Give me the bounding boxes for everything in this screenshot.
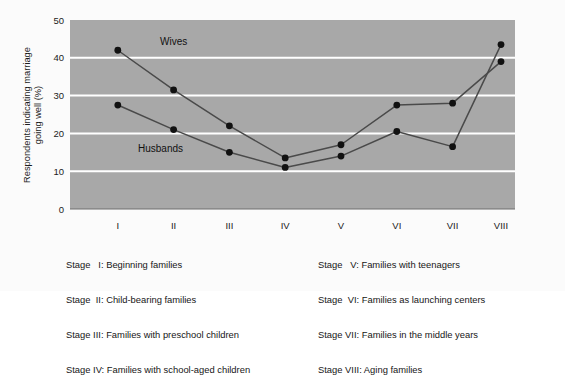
legend-item: Stage V: Families with teenagers: [318, 259, 485, 271]
data-point: [449, 143, 456, 150]
x-tick-VI: VI: [392, 220, 401, 231]
data-point: [170, 87, 177, 94]
data-point: [498, 41, 505, 48]
legend-item: Stage I: Beginning families: [66, 259, 250, 271]
x-tick-VII: VII: [447, 220, 459, 231]
data-point: [449, 100, 456, 107]
data-point: [393, 128, 400, 135]
data-point: [114, 47, 121, 54]
x-tick-II: II: [171, 220, 176, 231]
stage-legend-right-column: Stage V: Families with teenagers Stage V…: [318, 236, 485, 379]
y-axis-title-line-2: going well (%): [33, 86, 43, 144]
x-tick-V: V: [338, 220, 345, 231]
data-point: [498, 58, 505, 65]
legend-item: Stage III: Families with preschool child…: [66, 329, 250, 341]
y-tick-40: 40: [53, 52, 64, 63]
legend-item: Stage II: Child-bearing families: [66, 294, 250, 306]
y-axis-title-line-1: Respondents indicating marriage: [22, 47, 32, 183]
data-point: [282, 155, 289, 162]
data-point: [393, 102, 400, 109]
data-point: [338, 141, 345, 148]
legend-item: Stage VII: Families in the middle years: [318, 329, 485, 341]
y-tick-10: 10: [53, 166, 64, 177]
data-point: [114, 102, 121, 109]
data-point: [226, 149, 233, 156]
y-axis-tick-labels: 50 40 30 20 10 0: [53, 15, 64, 215]
x-tick-I: I: [116, 220, 119, 231]
plot-area-background: [70, 20, 515, 209]
y-tick-0: 0: [59, 204, 64, 215]
x-tick-VIII: VIII: [494, 220, 508, 231]
legend-item: Stage VI: Families as launching centers: [318, 294, 485, 306]
y-tick-50: 50: [53, 15, 64, 26]
stage-legend-left-column: Stage I: Beginning families Stage II: Ch…: [66, 236, 250, 379]
x-axis-tick-labels: I II III IV V VI VII VIII: [116, 220, 508, 231]
series-label-wives: Wives: [160, 36, 187, 47]
series-label-husbands: Husbands: [138, 143, 183, 154]
data-point: [170, 126, 177, 133]
data-point: [226, 122, 233, 129]
legend-item: Stage IV: Families with school-aged chil…: [66, 364, 250, 376]
x-tick-IV: IV: [281, 220, 291, 231]
y-tick-30: 30: [53, 90, 64, 101]
data-point: [282, 164, 289, 171]
y-tick-20: 20: [53, 128, 64, 139]
y-axis-title: Respondents indicating marriage going we…: [22, 47, 43, 183]
legend-item: Stage VIII: Aging families: [318, 364, 485, 376]
x-tick-III: III: [225, 220, 233, 231]
data-point: [338, 153, 345, 160]
